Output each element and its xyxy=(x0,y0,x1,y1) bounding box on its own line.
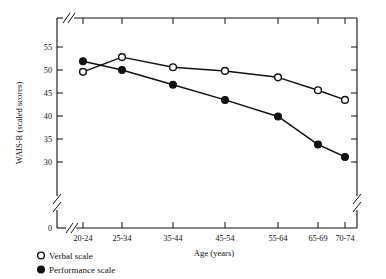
data-point xyxy=(315,87,322,94)
y-axis-break-icon xyxy=(53,194,61,212)
legend-open-circle-icon xyxy=(38,252,45,259)
x-tick-label: 45-54 xyxy=(215,234,234,243)
data-point xyxy=(80,68,87,75)
x-tick-label: 70-74 xyxy=(335,234,354,243)
x-tick-label: 55-64 xyxy=(268,234,287,243)
data-point xyxy=(342,154,349,161)
data-point xyxy=(275,74,282,81)
data-point xyxy=(119,67,126,74)
x-tick-label: 20-24 xyxy=(73,234,92,243)
y-tick-label: 45 xyxy=(44,89,52,98)
x-tick-labels: 20-24 25-34 35-44 45-54 55-64 65-69 70-7… xyxy=(73,234,354,243)
y-tick-label: 55 xyxy=(44,43,52,52)
performance-scale-points xyxy=(80,58,349,160)
data-point xyxy=(315,141,322,148)
data-point xyxy=(170,64,177,71)
series-performance-scale xyxy=(80,58,349,160)
x-axis-title: Age (years) xyxy=(194,248,234,258)
data-point xyxy=(275,113,282,120)
right-axis-break-icon xyxy=(353,194,361,212)
data-point xyxy=(170,81,177,88)
verbal-scale-points xyxy=(80,54,349,104)
series-verbal-scale xyxy=(80,54,349,104)
data-point xyxy=(222,97,229,104)
y-tick-label: 40 xyxy=(44,112,52,121)
y-tick-label: 35 xyxy=(44,135,52,144)
y-ticks-right xyxy=(351,47,357,162)
y-tick-label-zero: 0 xyxy=(48,224,52,233)
y-ticks xyxy=(57,47,63,162)
chart-figure: 55 50 45 40 35 30 0 xyxy=(0,0,386,279)
verbal-scale-line xyxy=(83,57,345,100)
data-point xyxy=(119,54,126,61)
legend: Verbal scale Performance scale xyxy=(38,251,116,275)
x-tick-label: 35-44 xyxy=(163,234,182,243)
chart-svg: 55 50 45 40 35 30 0 xyxy=(0,0,386,279)
data-point xyxy=(222,68,229,75)
performance-scale-line xyxy=(83,61,345,157)
x-ticks-top xyxy=(83,18,345,24)
y-tick-label: 30 xyxy=(44,158,52,167)
legend-filled-circle-icon xyxy=(38,266,45,273)
data-point xyxy=(342,97,349,104)
plot-frame xyxy=(53,13,361,233)
y-axis-title: WAIS-R (scaled scores) xyxy=(14,82,24,165)
x-tick-label: 65-69 xyxy=(308,234,327,243)
legend-label-performance-scale: Performance scale xyxy=(49,265,115,275)
legend-label-verbal-scale: Verbal scale xyxy=(49,251,93,261)
data-point xyxy=(80,58,87,65)
x-tick-label: 25-34 xyxy=(112,234,131,243)
x-ticks xyxy=(83,222,345,228)
y-tick-labels: 55 50 45 40 35 30 0 xyxy=(44,43,52,233)
top-axis-break-icon xyxy=(63,13,75,23)
y-tick-label: 50 xyxy=(44,66,52,75)
